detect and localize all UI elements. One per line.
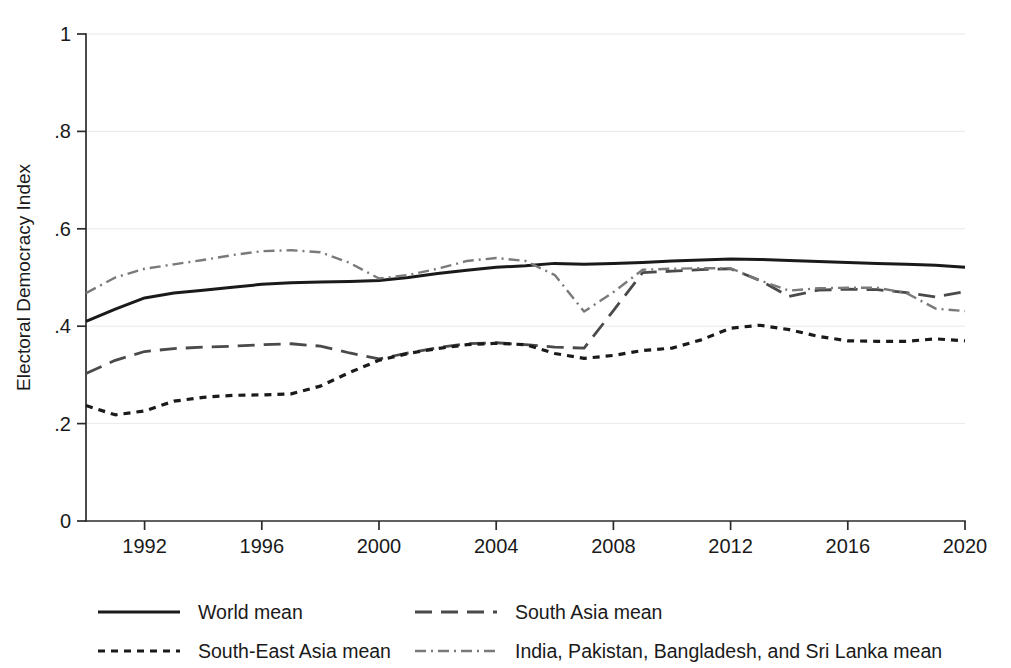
axes xyxy=(86,34,965,521)
chart-legend: World meanSouth Asia meanSouth-East Asia… xyxy=(98,601,942,662)
x-tick-label: 1992 xyxy=(122,535,167,557)
electoral-democracy-index-line-chart: 19921996200020042008201220162020 0.2.4.6… xyxy=(0,0,1011,668)
y-tick-label: .6 xyxy=(54,218,71,240)
x-tick-label: 1996 xyxy=(240,535,285,557)
y-tick-label: .4 xyxy=(54,315,71,337)
series-line-2 xyxy=(86,325,965,415)
series-line-1 xyxy=(86,269,965,374)
legend-label-0: World mean xyxy=(198,601,303,623)
x-axis-tick-labels: 19921996200020042008201220162020 xyxy=(122,535,987,557)
x-tick-label: 2000 xyxy=(357,535,402,557)
x-tick-label: 2016 xyxy=(826,535,871,557)
axis-ticks xyxy=(77,34,965,530)
legend-label-2: South-East Asia mean xyxy=(198,640,391,662)
y-tick-label: .8 xyxy=(54,120,71,142)
x-tick-label: 2020 xyxy=(943,535,988,557)
y-axis-title: Electoral Democracy Index xyxy=(13,163,34,391)
x-tick-label: 2012 xyxy=(708,535,753,557)
data-series xyxy=(86,250,965,415)
y-tick-label: .2 xyxy=(54,413,71,435)
series-line-3 xyxy=(86,250,965,311)
chart-figure: 19921996200020042008201220162020 0.2.4.6… xyxy=(0,0,1011,668)
series-line-0 xyxy=(86,259,965,321)
gridlines xyxy=(86,34,965,424)
legend-label-1: South Asia mean xyxy=(515,601,662,623)
x-tick-label: 2008 xyxy=(591,535,636,557)
y-tick-label: 0 xyxy=(60,510,71,532)
x-tick-label: 2004 xyxy=(474,535,519,557)
legend-label-3: India, Pakistan, Bangladesh, and Sri Lan… xyxy=(515,640,942,662)
y-axis-tick-labels: 0.2.4.6.81 xyxy=(54,23,71,532)
y-tick-label: 1 xyxy=(60,23,71,45)
y-axis-title-text: Electoral Democracy Index xyxy=(13,163,34,391)
